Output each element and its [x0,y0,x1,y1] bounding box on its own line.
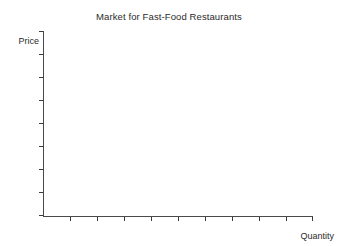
y-axis-line [43,31,44,217]
y-axis-tick [39,192,43,193]
x-axis-tick [259,217,260,221]
y-axis-tick [39,215,43,216]
y-axis-tick [39,31,43,32]
y-axis-tick [39,77,43,78]
y-axis-tick [39,54,43,55]
y-axis-tick [39,123,43,124]
x-axis-label-wrapper: Quantity [0,225,334,243]
y-axis-label-wrapper: Price [0,30,39,48]
y-axis-tick [39,146,43,147]
plot-area [43,31,312,216]
x-axis-tick [70,217,71,221]
x-axis-tick [205,217,206,221]
x-axis-tick [232,217,233,221]
x-axis-tick [286,217,287,221]
x-axis-tick [124,217,125,221]
chart-title: Market for Fast-Food Restaurants [0,11,338,22]
chart-figure: Market for Fast-Food Restaurants Price Q… [0,0,338,246]
y-axis-tick [39,100,43,101]
y-axis-label: Price [18,36,39,46]
x-axis-tick [178,217,179,221]
y-axis-tick [39,169,43,170]
x-axis-label: Quantity [300,231,334,241]
x-axis-tick [97,217,98,221]
x-axis-tick [312,217,313,221]
x-axis-tick [151,217,152,221]
